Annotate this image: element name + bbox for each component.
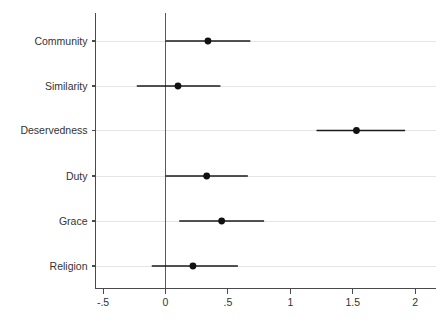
category-label-deservedness: Deservedness	[20, 124, 87, 136]
category-label-grace: Grace	[59, 215, 88, 227]
point-marker-similarity	[175, 83, 182, 90]
category-label-duty: Duty	[66, 170, 88, 182]
x-tick-label: 1.5	[345, 296, 360, 308]
coefficient-plot: -.50.511.52 CommunitySimilarityDeservedn…	[0, 0, 443, 323]
category-label-community: Community	[34, 35, 88, 47]
category-label-religion: Religion	[50, 260, 88, 272]
point-marker-duty	[203, 173, 210, 180]
x-tick-label: 0	[163, 296, 169, 308]
confidence-intervals	[137, 41, 405, 266]
x-axis-tick-labels: -.50.511.52	[97, 296, 418, 308]
point-marker-grace	[218, 218, 225, 225]
point-markers	[175, 38, 360, 270]
point-marker-deservedness	[353, 127, 360, 134]
x-axis-ticks	[92, 41, 416, 294]
grid-lines	[96, 41, 437, 266]
category-label-similarity: Similarity	[45, 80, 88, 92]
x-tick-label: 2	[412, 296, 418, 308]
x-tick-label: 1	[287, 296, 293, 308]
y-axis-category-labels: CommunitySimilarityDeservednessDutyGrace…	[20, 35, 88, 272]
point-marker-religion	[190, 263, 197, 270]
x-tick-label: -.5	[97, 296, 109, 308]
x-tick-label: .5	[224, 296, 233, 308]
point-marker-community	[205, 38, 212, 45]
plot-canvas: -.50.511.52 CommunitySimilarityDeservedn…	[0, 0, 443, 323]
axis-lines	[96, 13, 437, 289]
